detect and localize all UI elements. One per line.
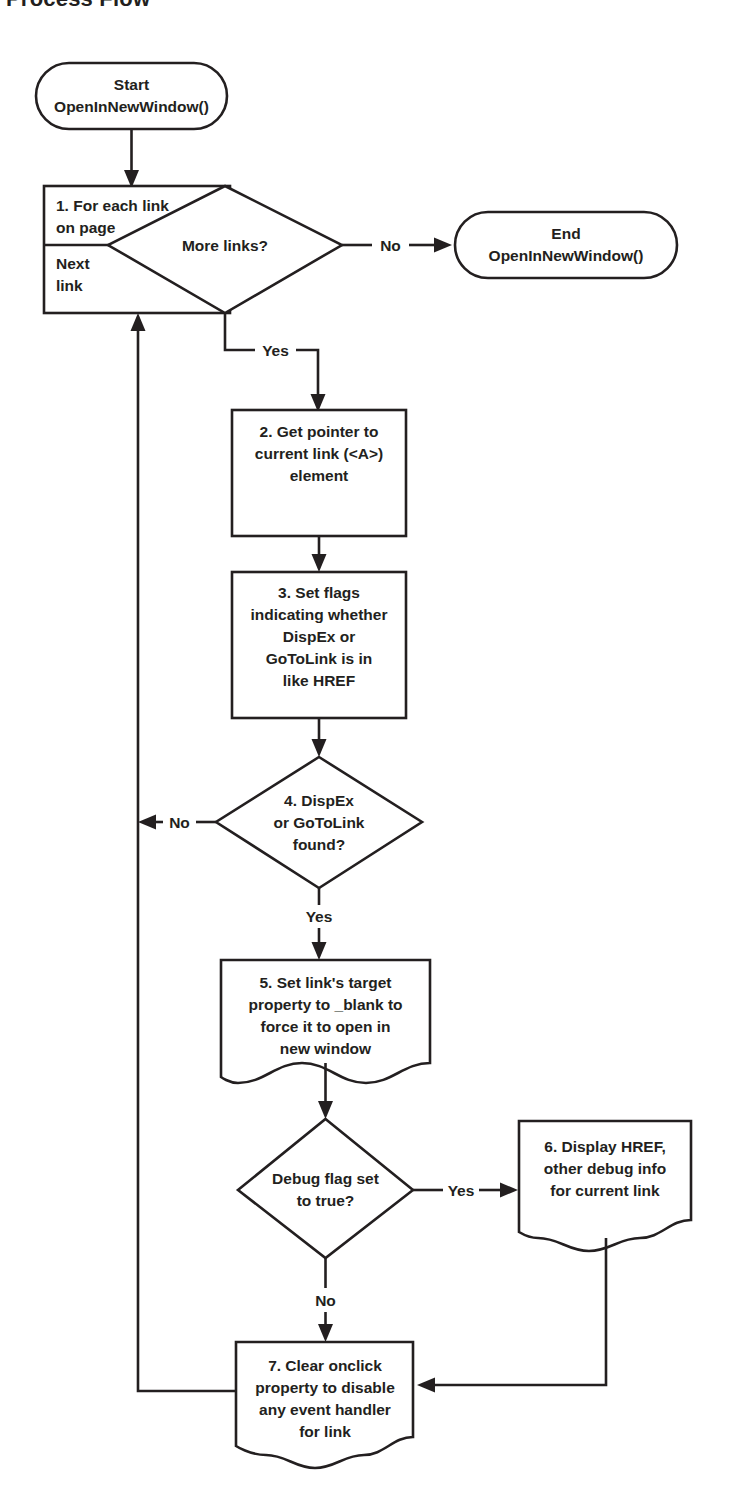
step-3-line-3: DispEx or — [283, 628, 355, 645]
step-3-line-1: 3. Set flags — [278, 584, 360, 601]
edge-line — [138, 325, 236, 1391]
node-step-7: 7. Clear onclick property to disable any… — [236, 1342, 413, 1468]
step-2-line-2: current link (<A>) — [255, 445, 383, 462]
loop-footer-line-2: link — [56, 277, 83, 294]
step-5-line-1: 5. Set link's target — [259, 974, 391, 991]
step-7-line-1: 7. Clear onclick — [268, 1357, 382, 1374]
step-4-line-2: or GoToLink — [274, 814, 365, 831]
end-label-line-1: End — [551, 225, 580, 242]
edge-step4-no: No — [138, 814, 216, 831]
edge-label-yes: Yes — [262, 342, 289, 359]
loop-header-line-2: on page — [56, 219, 116, 236]
arrow-head-icon — [500, 1183, 518, 1198]
edge-label-no: No — [380, 237, 401, 254]
process-flow-diagram: Start OpenInNewWindow() 1. For each link… — [0, 0, 730, 1498]
step-3-line-2: indicating whether — [251, 606, 388, 623]
node-start: Start OpenInNewWindow() — [36, 63, 227, 129]
step-3-line-5: like HREF — [283, 672, 355, 689]
edge-step2-to-step3 — [312, 536, 327, 572]
arrow-head-icon — [318, 1324, 333, 1342]
node-step-6: 6. Display HREF, other debug info for cu… — [519, 1121, 691, 1251]
loop-footer-line-1: Next — [56, 255, 90, 272]
loop-header-line-1: 1. For each link — [56, 197, 169, 214]
node-step-3: 3. Set flags indicating whether DispEx o… — [232, 572, 406, 718]
start-terminator-shape — [36, 63, 227, 129]
step-7-line-3: any event handler — [259, 1401, 391, 1418]
step-5-line-4: new window — [280, 1040, 372, 1057]
step-6-line-3: for current link — [550, 1182, 660, 1199]
edge-step4-yes: Yes — [306, 888, 333, 960]
step-2-line-1: 2. Get pointer to — [260, 423, 379, 440]
debug-flag-line-2: to true? — [297, 1192, 355, 1209]
step-3-line-4: GoToLink is in — [266, 650, 373, 667]
edge-line-right — [296, 350, 318, 400]
arrow-head-icon — [318, 1101, 333, 1119]
edge-label-no: No — [315, 1292, 336, 1309]
debug-flag-line-1: Debug flag set — [272, 1170, 379, 1187]
arrow-head-icon — [131, 313, 146, 331]
edge-label-no: No — [169, 814, 190, 831]
start-label-line-1: Start — [114, 76, 149, 93]
edge-label-yes: Yes — [306, 908, 333, 925]
node-debug-flag-decision: Debug flag set to true? — [238, 1119, 413, 1258]
node-end: End OpenInNewWindow() — [455, 212, 677, 278]
arrow-head-icon — [312, 739, 327, 757]
step-7-line-4: for link — [299, 1423, 351, 1440]
step-7-line-2: property to disable — [255, 1379, 395, 1396]
step-6-line-2: other debug info — [544, 1160, 666, 1177]
edge-line-left — [225, 313, 255, 350]
edge-start-to-loop — [124, 129, 139, 188]
step-5-line-2: property to _blank to — [248, 996, 402, 1013]
arrow-head-icon — [312, 554, 327, 572]
step-2-line-3: element — [290, 467, 349, 484]
step-4-line-3: found? — [293, 836, 346, 853]
start-label-line-2: OpenInNewWindow() — [54, 98, 209, 115]
more-links-label: More links? — [182, 237, 268, 254]
step-5-line-3: force it to open in — [260, 1018, 390, 1035]
edge-more-links-no: No — [342, 237, 452, 254]
edge-label-yes: Yes — [448, 1182, 475, 1199]
edge-line — [429, 1238, 606, 1385]
arrow-head-icon — [434, 238, 452, 253]
step-6-line-1: 6. Display HREF, — [544, 1138, 665, 1155]
arrow-head-icon — [138, 815, 156, 830]
edge-debug-no: No — [315, 1258, 336, 1342]
step-4-line-1: 4. DispEx — [284, 792, 354, 809]
node-step-4-decision: 4. DispEx or GoToLink found? — [216, 757, 422, 888]
node-step-2: 2. Get pointer to current link (<A>) ele… — [232, 410, 406, 536]
end-label-line-2: OpenInNewWindow() — [489, 247, 644, 264]
edge-debug-yes: Yes — [413, 1182, 518, 1199]
arrow-head-icon — [312, 942, 327, 960]
debug-flag-diamond-shape — [238, 1119, 413, 1258]
edge-step3-to-step4 — [312, 718, 327, 757]
end-terminator-shape — [455, 212, 677, 278]
edge-step6-to-step7 — [417, 1238, 606, 1393]
flowchart-canvas: Process Flow Start OpenInNewWindow() 1. … — [0, 0, 730, 1498]
edge-more-links-yes: Yes — [225, 313, 326, 412]
edge-step7-to-loop — [131, 313, 237, 1391]
arrow-head-icon — [417, 1378, 435, 1393]
